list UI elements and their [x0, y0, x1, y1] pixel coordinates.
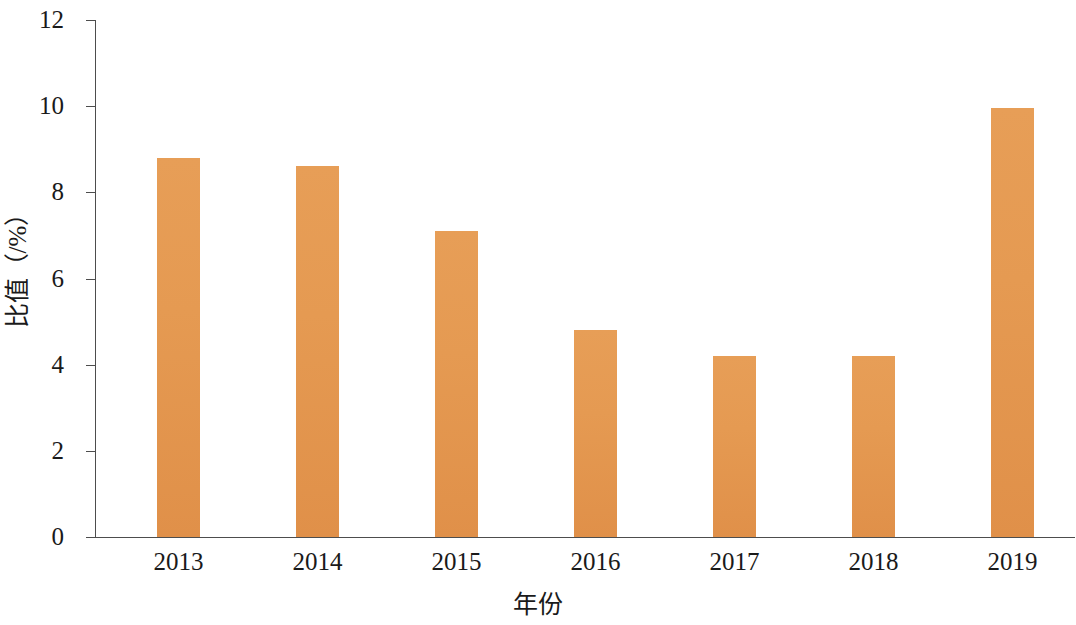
bar-2014 — [296, 166, 339, 537]
x-axis-line — [95, 537, 1075, 538]
plot-area — [96, 20, 1074, 537]
x-axis-tick-label: 2018 — [814, 549, 934, 574]
x-axis-tick-label: 2015 — [397, 549, 517, 574]
y-axis-tick-mark — [86, 106, 95, 107]
y-axis-tick-mark — [86, 192, 95, 193]
x-axis-tick-label: 2019 — [953, 549, 1073, 574]
bar-2018 — [852, 356, 895, 537]
bar-2017 — [713, 356, 756, 537]
y-axis-tick-mark — [86, 537, 95, 538]
x-axis-tick-label: 2016 — [536, 549, 656, 574]
bar-2016 — [574, 330, 617, 537]
y-axis-tick-label: 10 — [18, 93, 64, 118]
x-axis-title: 年份 — [0, 592, 1076, 617]
x-axis-tick-label: 2014 — [258, 549, 378, 574]
y-axis-tick-label: 0 — [18, 524, 64, 549]
y-axis-tick-mark — [86, 20, 95, 21]
x-axis-tick-label: 2013 — [119, 549, 239, 574]
x-axis-tick-label: 2017 — [675, 549, 795, 574]
bar-chart: 024681012 2013201420152016201720182019 年… — [0, 0, 1076, 625]
bar-2013 — [157, 158, 200, 537]
y-axis-tick-label: 2 — [18, 438, 64, 463]
y-axis-tick-mark — [86, 365, 95, 366]
y-axis-title: 比值（/%） — [5, 145, 30, 385]
bar-2015 — [435, 231, 478, 537]
y-axis-tick-mark — [86, 279, 95, 280]
y-axis-tick-label: 12 — [18, 7, 64, 32]
bar-2019 — [991, 108, 1034, 537]
y-axis-tick-mark — [86, 451, 95, 452]
